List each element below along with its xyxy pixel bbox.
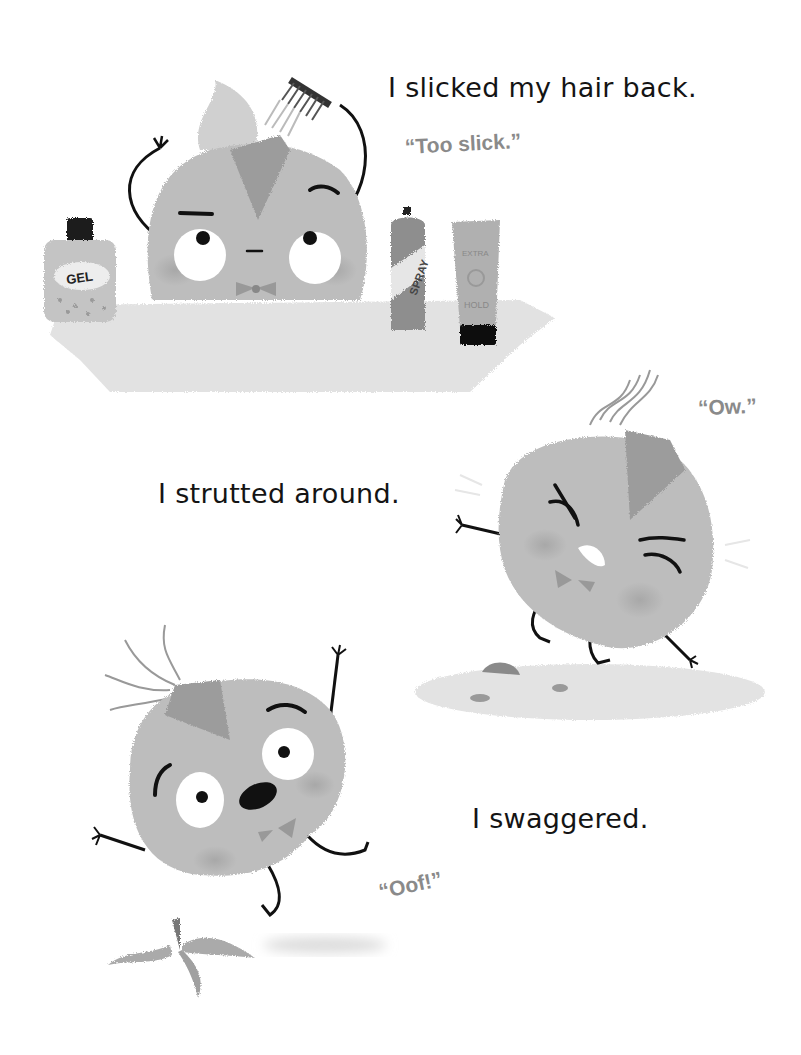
skid-mark — [263, 937, 387, 953]
scene-slick-illustration: GEL — [0, 0, 801, 420]
storybook-page: I slicked my hair back. “Too slick.” — [0, 0, 801, 1055]
tube-label-bottom: HOLD — [464, 300, 490, 310]
gelled-hair — [198, 80, 257, 150]
leg — [262, 865, 279, 915]
right-arm-raised — [330, 655, 338, 720]
scene-swagger-illustration — [0, 620, 801, 1040]
banana-peel — [108, 918, 255, 998]
frazzled-hair — [590, 370, 658, 425]
comb — [265, 80, 330, 136]
left-arm — [462, 525, 505, 535]
tube-label-top: EXTRA — [462, 249, 489, 258]
left-arm — [100, 835, 145, 850]
right-hand — [307, 835, 368, 854]
